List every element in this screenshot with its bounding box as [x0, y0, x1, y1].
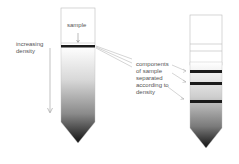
tube-after — [190, 15, 222, 148]
components-label: components of sample separated according… — [136, 61, 169, 96]
density-arrow — [48, 48, 53, 113]
density-label: increasing density — [16, 41, 43, 55]
component-band-1 — [190, 70, 222, 73]
component-band-2 — [190, 82, 222, 85]
component-band-3 — [190, 100, 222, 103]
sample-label: sample — [67, 22, 86, 29]
sample-band — [61, 45, 95, 48]
centrifugation-diagram — [0, 0, 239, 164]
